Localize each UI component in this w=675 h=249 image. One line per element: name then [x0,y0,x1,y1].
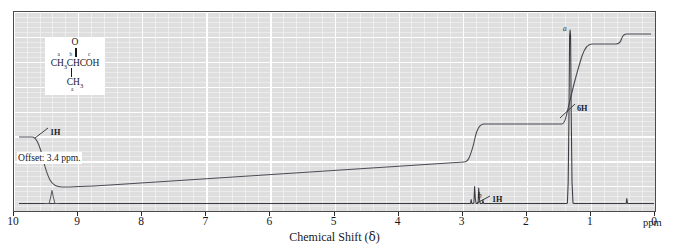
axis-tick-label: 10 [7,214,19,228]
axis-tick-label: 4 [395,214,401,228]
vertical-gridline-major [655,12,656,211]
integration-label-right: 6H [577,105,587,113]
axis-unit-label: ppm [643,216,662,229]
structure-label-a2: a [71,87,73,92]
axis-title-text: Chemical Shift ( [289,230,368,244]
axis-tick-label: 6 [267,214,273,228]
axis-tick-label: 8 [138,214,144,228]
axis-title-delta: δ [369,230,376,244]
integration-label-middle: 1H [492,196,502,204]
molecular-structure-inset: O a b c CH3CHCOH CH3 a [45,37,105,95]
axis-tick-label: 2 [523,214,529,228]
spectrum-traces [14,12,655,211]
carbonyl-oxygen-label: O [45,38,105,48]
axis-title-close: ) [376,230,380,244]
axis-tick-label: 3 [459,214,465,228]
structure-methyl-branch: CH3 [51,77,99,91]
integration-label-left: 1H [50,129,60,137]
axis-tick-label: 7 [202,214,208,228]
structure-main-chain: CH3CHCOH [45,58,105,72]
axis-tick-label: 9 [74,214,80,228]
axis-tick-label: 5 [331,214,337,228]
plot-area: O a b c CH3CHCOH CH3 a Offset: 3.4 ppm. … [13,11,656,212]
offset-note: Offset: 3.4 ppm. [17,152,82,164]
nmr-spectrum-figure: O a b c CH3CHCOH CH3 a Offset: 3.4 ppm. … [0,0,675,249]
peak-label-b: b [478,193,482,200]
peak-label-a: a [563,26,567,33]
axis-title: Chemical Shift (δ) [13,230,656,245]
double-bond-icon [75,48,77,57]
axis-tick-label: 1 [587,214,593,228]
axis-tick-labels: 109876543210 [13,214,656,230]
